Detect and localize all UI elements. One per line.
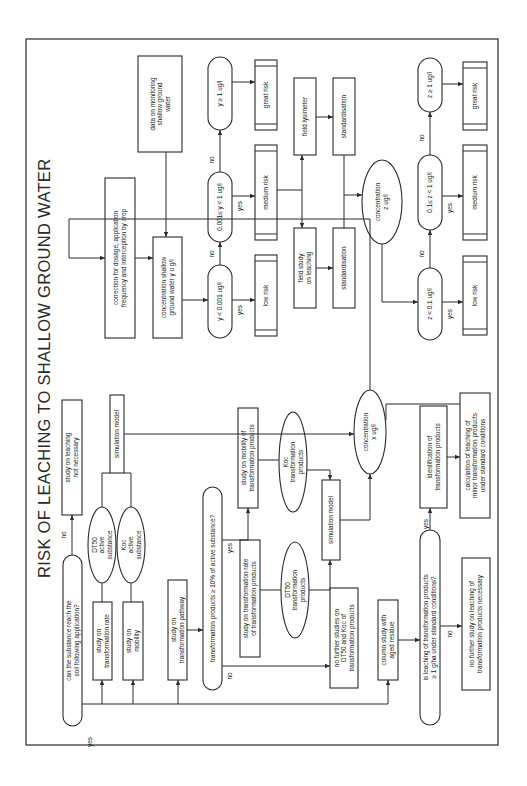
- node-identification: identification oftransformation products: [420, 406, 447, 508]
- node-text: field lysimeter: [301, 96, 309, 136]
- node-text: 0.1≤ z < 1 ug/l: [426, 172, 434, 212]
- node-field-lysimeter: field lysimeter: [294, 78, 316, 155]
- node-y-high: y ≥ 1 ug/l: [208, 57, 232, 130]
- node-text: DT50: [284, 582, 291, 598]
- node-std-2: standardisation: [333, 228, 355, 308]
- edge-label-no: no: [418, 250, 425, 258]
- node-study-mob-tp: study on mobility oftransformation produ…: [238, 408, 258, 508]
- node-text: y ≥ 1 ug/l: [216, 81, 224, 107]
- node-text: DT50: [91, 537, 98, 553]
- node-text: transformation products ≥ 10% of active …: [209, 515, 217, 662]
- node-y-mid: 0.001≤ y < 1 ug/l: [208, 172, 232, 242]
- node-conc-y: concentration shallowground water y u g/…: [153, 237, 182, 338]
- node-text: transformation products: [434, 423, 442, 490]
- node-text: low risk: [262, 284, 269, 306]
- diagram-title: RISK OF LEACHING TO SHALLOW GROUND WATER: [35, 159, 53, 578]
- edge-label-yes: yes: [226, 543, 234, 553]
- node-text: DT50 and Koc of: [340, 614, 347, 662]
- node-text: medium risk: [262, 174, 269, 209]
- node-monitoring: data on monitoringshallow groundwater: [138, 56, 182, 152]
- node-study-pathway: study ontransformation pathway: [168, 580, 187, 680]
- node-text: great risk: [471, 82, 479, 109]
- node-text: transformation pathway: [178, 596, 186, 663]
- node-no-leach-study: study on leachingnot necessary: [62, 400, 82, 515]
- node-text: standardisation: [340, 94, 347, 138]
- node-text: products: [299, 578, 307, 603]
- node-text: aged residue: [388, 621, 396, 658]
- node-text: simulation model: [113, 410, 120, 458]
- edge-label-no: no: [226, 672, 233, 680]
- node-text: 0.001≤ y < 1 ug/l: [216, 183, 224, 230]
- node-text: Koc: [282, 456, 289, 468]
- node-text: ground water y u g/l: [168, 259, 176, 315]
- node-text: substance: [106, 530, 113, 560]
- node-text: products: [297, 450, 305, 475]
- node-z-high: z ≥ 1 ug/l: [418, 58, 442, 112]
- node-text: Koc: [120, 539, 127, 551]
- edge-label-no: no: [418, 134, 425, 142]
- edge-label-yes: yes: [446, 309, 454, 319]
- node-text: water: [164, 95, 171, 112]
- node-study-rate-tp: study on transformation rateof transform…: [240, 540, 260, 657]
- node-field-study: field studyon leaching: [294, 228, 316, 308]
- flowchart: RISK OF LEACHING TO SHALLOW GROUND WATER…: [0, 0, 527, 786]
- node-text: transformation rate: [103, 614, 110, 668]
- node-text: transformation products: [348, 604, 356, 671]
- node-text: transformation: [291, 569, 298, 610]
- edge-label-yes: yes: [86, 737, 94, 747]
- node-conc-z: concentrationz ug/l: [362, 160, 402, 244]
- edge-label-yes: yes: [422, 519, 430, 529]
- node-text: simulation model: [327, 496, 334, 544]
- node-study-transf-rate: study ontransformation rate: [93, 602, 112, 680]
- node-text: x ug/l: [370, 424, 378, 439]
- node-risk-great-z: great risk: [463, 62, 487, 130]
- node-text: mobility: [133, 629, 141, 651]
- edge-label-no: no: [208, 250, 215, 258]
- node-sim-model-2: simulation model: [322, 480, 340, 560]
- node-risk-low-z: low risk: [463, 256, 487, 335]
- node-text: on leaching: [305, 251, 313, 284]
- node-text: substance: [135, 530, 142, 560]
- node-text: not necessary: [72, 437, 80, 478]
- edge-label-yes: yes: [236, 201, 244, 211]
- node-q-reach-soil: can the substance reach thesoil followin…: [63, 555, 82, 726]
- node-std-1: standardisation: [333, 78, 355, 155]
- node-risk-med-z: medium risk: [463, 145, 487, 240]
- node-text: great risk: [262, 81, 270, 108]
- node-y-low: y < 0.001 ug/l: [208, 265, 232, 338]
- node-text: low risk: [471, 284, 478, 306]
- node-conc-x: concentrationx ug/l: [354, 390, 386, 474]
- node-text: active: [127, 536, 134, 553]
- node-koc-tp: Koctransformationproducts: [279, 412, 307, 512]
- node-text: frequency and interception by crop: [120, 209, 128, 307]
- node-text: of transformation products: [250, 561, 258, 635]
- node-text: transformation: [289, 441, 296, 482]
- node-text: z < 0.1 ug/l: [426, 288, 434, 319]
- node-dt50-active: DT50activesubstance: [88, 507, 116, 583]
- node-text: standardisation: [340, 246, 347, 290]
- node-text: identification of: [426, 435, 433, 478]
- edge-label-yes: yes: [236, 305, 244, 315]
- edge-label-no: no: [60, 531, 67, 539]
- node-column-study: column study withaged residue: [378, 600, 398, 680]
- node-q-leach-1gha: is leaching of transformation products≥ …: [420, 530, 440, 725]
- node-risk-great-y: great risk: [255, 60, 277, 130]
- edge-label-no: no: [208, 156, 215, 164]
- node-sim-model-1: simulation model: [110, 395, 124, 473]
- node-koc-active: Kocactivesubstance: [117, 507, 145, 583]
- edge-label-no: no: [446, 630, 453, 638]
- node-no-further-dt50: no further studies onDT50 and Koc oftran…: [330, 588, 358, 688]
- node-text: ≥ 1 g/ha under standard conditions?: [430, 576, 438, 678]
- node-text: medium risk: [471, 174, 478, 209]
- node-z-low: z < 0.1 ug/l: [418, 268, 442, 340]
- node-text: y < 0.001 ug/l: [216, 282, 224, 321]
- node-text: transformation products: [248, 424, 256, 491]
- node-calc-leaching: calculation of leaching ofminor transfor…: [460, 393, 490, 518]
- node-study-mobility: study onmobility: [123, 602, 143, 680]
- node-risk-low-y: low risk: [255, 255, 277, 336]
- node-text: can the substance reach the: [65, 600, 72, 681]
- node-text: soil following application?: [73, 604, 81, 677]
- node-text: under standard conditions: [479, 419, 486, 493]
- node-z-mid: 0.1≤ z < 1 ug/l: [418, 155, 442, 230]
- node-text: z ≥ 1 ug/l: [426, 72, 434, 98]
